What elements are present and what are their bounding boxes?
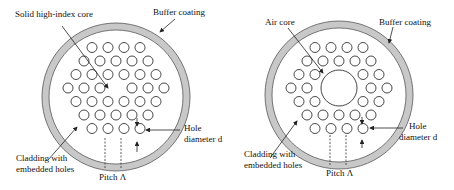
right-buffer-arrow <box>389 27 393 43</box>
right-fiber: Air core Buffer coating Cladding with em… <box>244 17 438 178</box>
right-cladding-label-1: Cladding with <box>244 149 296 159</box>
right-hole-label-2: diameter d <box>399 132 438 142</box>
buffer-arrow <box>160 19 175 32</box>
right-cladding-label-2: embedded holes <box>244 160 303 170</box>
pitch-label: Pitch Λ <box>99 172 127 182</box>
air-core-label: Air core <box>265 17 295 27</box>
core-label: Solid high-index core <box>15 9 93 19</box>
air-core <box>321 70 357 106</box>
buffer-label: Buffer coating <box>153 7 206 17</box>
right-buffer-label: Buffer coating <box>379 17 432 27</box>
hole-label-1: Hole <box>184 123 202 133</box>
cladding-label-1: Cladding with <box>16 153 68 163</box>
left-fiber: Solid high-index core Buffer coating Cla… <box>15 7 223 182</box>
pcf-diagram: Solid high-index core Buffer coating Cla… <box>0 0 454 190</box>
cladding-label-2: embedded holes <box>16 164 75 174</box>
right-pitch-label: Pitch Λ <box>326 168 354 178</box>
left-cladding <box>49 30 183 164</box>
hole-label-2: diameter d <box>184 134 223 144</box>
right-hole-label-1: Hole <box>409 121 427 131</box>
